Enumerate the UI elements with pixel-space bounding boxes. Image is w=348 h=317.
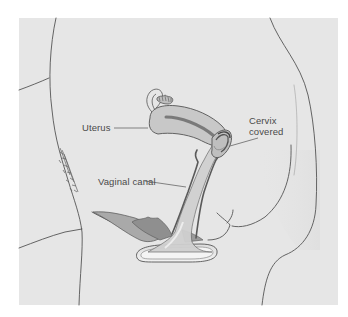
hair-texture	[59, 148, 78, 192]
anatomical-diagram: Uterus Vaginal canal Cervix covered	[0, 0, 348, 317]
label-vaginal-canal: Vaginal canal	[98, 176, 156, 187]
label-cervix-covered: Cervix covered	[249, 115, 284, 137]
diagram-illustration	[0, 0, 348, 317]
label-cervix-line2: covered	[249, 126, 284, 137]
cervix-leader-line	[230, 138, 258, 146]
shading	[255, 150, 320, 250]
label-cervix-line1: Cervix	[249, 115, 284, 126]
label-uterus: Uterus	[82, 122, 111, 133]
